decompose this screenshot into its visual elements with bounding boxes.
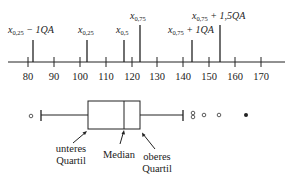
label-median: x0,5 [115,24,129,36]
tick-label-130: 130 [149,71,165,82]
label-q25: x0,25 [77,24,94,36]
tick-label-170: 170 [253,71,269,82]
arrowhead-median [122,130,126,135]
caption-upper-quartile-line1: oberes [143,151,170,162]
boxplot-diagram: 80 90 100 110 120 130 140 150 160 170 x0… [0,0,293,180]
label-q75-plus-1qa: x0,75 + 1QA [167,24,215,36]
boxplot [29,101,248,129]
tick-label-150: 150 [201,71,217,82]
caption-lower-quartile-line1: unteres [56,143,86,154]
tick-label-100: 100 [72,71,88,82]
axis-tick-labels: 80 90 100 110 120 130 140 150 160 170 [23,71,269,82]
marker-labels: x0,25 − 1QA x0,25 x0,5 x0,75 x0,75 + 1QA… [7,10,246,36]
iqr-box [88,101,140,129]
outlier-open [217,113,221,117]
tick-label-160: 160 [227,71,243,82]
tick-label-120: 120 [124,71,140,82]
tick-label-110: 110 [98,71,113,82]
outlier-open [29,114,33,118]
outlier-filled [244,113,248,117]
tick-label-80: 80 [23,71,34,82]
label-q75-plus-1-5qa: x0,75 + 1,5QA [191,10,246,22]
outlier-open [191,115,195,119]
caption-lower-quartile-line2: Quartil [56,155,86,166]
caption-upper-quartile-line2: Quartil [142,163,172,174]
outlier-open [202,113,206,117]
arrow-upper-quartile [143,134,155,149]
label-q25-minus-1qa: x0,25 − 1QA [7,24,55,36]
tick-label-140: 140 [175,71,191,82]
caption-median: Median [103,149,136,160]
outlier-open [191,111,195,115]
tick-label-90: 90 [49,71,60,82]
label-q75: x0,75 [129,10,146,22]
